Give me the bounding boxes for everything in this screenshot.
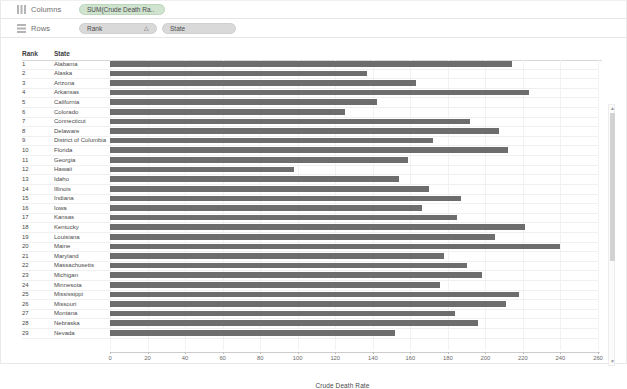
cell-state: Michigan [54,272,78,278]
bar[interactable] [110,61,512,67]
axis-tick-label: 40 [182,355,188,361]
table-row[interactable]: 20Maine [22,243,598,253]
bar[interactable] [110,292,519,298]
axis-tick-label: 220 [518,355,528,361]
bar[interactable] [110,71,367,77]
bar[interactable] [110,196,461,202]
x-axis[interactable]: 020406080100120140160180200220240260 [110,352,600,364]
vertical-scrollbar[interactable]: ▲ ▼ [608,104,615,366]
column-header-rank[interactable]: Rank [22,50,38,57]
cell-state: Colorado [54,109,78,115]
table-row[interactable]: 2Alaska [22,70,598,80]
cell-rank: 27 [22,310,48,316]
cell-state: District of Columbia [54,137,106,143]
cell-rank: 25 [22,291,48,297]
bar[interactable] [110,320,478,326]
bar[interactable] [110,205,422,211]
bar[interactable] [110,90,529,96]
axis-tick [410,352,411,354]
bar-cell [110,175,598,184]
cell-rank: 18 [22,224,48,230]
cell-rank: 26 [22,301,48,307]
bar[interactable] [110,330,395,336]
axis-tick [335,352,336,354]
table-row[interactable]: 16Iowa [22,204,598,214]
table-row[interactable]: 8Delaware [22,127,598,137]
scroll-up-icon[interactable]: ▲ [609,105,616,112]
bar[interactable] [110,99,377,105]
table-row[interactable]: 29Nevada [22,329,598,339]
cell-rank: 10 [22,147,48,153]
table-row[interactable]: 23Michigan [22,271,598,281]
sort-ascending-icon: △ [144,23,149,34]
table-row[interactable]: 6Colorado [22,108,598,118]
bar[interactable] [110,157,408,163]
bar-cell [110,195,598,204]
axis-tick [223,352,224,354]
pill-sum-crude-death-rate[interactable]: SUM(Crude Death Ra.. [79,4,165,15]
pill-rank[interactable]: Rank △ [79,23,157,34]
bar[interactable] [110,272,482,278]
table-row[interactable]: 14Illinois [22,185,598,195]
bar-cell [110,233,598,242]
bar-cell [110,98,598,107]
bar-cell [110,70,598,79]
table-row[interactable]: 11Georgia [22,156,598,166]
table-row[interactable]: 28Nebraska [22,319,598,329]
cell-state: Hawaii [54,166,72,172]
rows-shelf[interactable]: Rows Rank △ State [0,19,627,38]
table-row[interactable]: 24Minnesota [22,281,598,291]
cell-state: Indiana [54,195,74,201]
table-row[interactable]: 3Arizona [22,79,598,89]
bar[interactable] [110,186,429,192]
bar[interactable] [110,128,499,134]
bar[interactable] [110,176,399,182]
column-header-state[interactable]: State [54,50,70,57]
table-row[interactable]: 19Louisiana [22,233,598,243]
bar[interactable] [110,109,345,115]
bar[interactable] [110,147,508,153]
table-row[interactable]: 21Maryland [22,252,598,262]
bar[interactable] [110,167,294,173]
table-row[interactable]: 26Missouri [22,300,598,310]
bar[interactable] [110,138,433,144]
bar[interactable] [110,301,506,307]
bar-rows-container: 1Alabama2Alaska3Arizona4Arkansas5Califor… [22,60,598,350]
table-row[interactable]: 5California [22,98,598,108]
table-row[interactable]: 18Kentucky [22,223,598,233]
bar[interactable] [110,224,525,230]
table-row[interactable]: 22Massachusetts [22,262,598,272]
table-row[interactable]: 4Arkansas [22,89,598,99]
bar-cell [110,291,598,300]
columns-shelf[interactable]: Columns SUM(Crude Death Ra.. [0,0,627,19]
table-row[interactable]: 13Idaho [22,175,598,185]
table-row[interactable]: 7Connecticut [22,118,598,128]
bar[interactable] [110,253,444,259]
cell-rank: 20 [22,243,48,249]
bar-cell [110,319,598,328]
bar[interactable] [110,234,495,240]
table-row[interactable]: 9District of Columbia [22,137,598,147]
table-row[interactable]: 15Indiana [22,195,598,205]
bar[interactable] [110,215,457,221]
bar[interactable] [110,244,560,250]
bar[interactable] [110,80,416,86]
scroll-down-icon[interactable]: ▼ [609,358,616,365]
bar-cell [110,243,598,252]
scrollbar-thumb[interactable] [610,113,615,261]
bar[interactable] [110,263,467,269]
cell-rank: 23 [22,272,48,278]
cell-rank: 28 [22,320,48,326]
table-row[interactable]: 1Alabama [22,60,598,70]
table-row[interactable]: 25Mississippi [22,291,598,301]
table-row[interactable]: 12Hawaii [22,166,598,176]
cell-rank: 4 [22,89,48,95]
table-row[interactable]: 27Montana [22,310,598,320]
bar[interactable] [110,282,440,288]
table-row[interactable]: 10Florida [22,146,598,156]
table-row[interactable]: 17Kansas [22,214,598,224]
bar[interactable] [110,119,470,125]
pill-state[interactable]: State [162,23,236,34]
rows-shelf-label: Rows [31,24,79,33]
bar[interactable] [110,311,455,317]
